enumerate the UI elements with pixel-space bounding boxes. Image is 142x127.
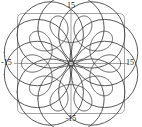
tick-label-right: 15 bbox=[126, 59, 134, 67]
plot-canvas bbox=[0, 0, 142, 127]
tick-label-left: -15 bbox=[1, 59, 12, 67]
figure-container: 15 -15 -15 15 bbox=[0, 0, 142, 127]
tick-label-bottom: -15 bbox=[0, 115, 142, 123]
tick-label-top: 15 bbox=[0, 2, 142, 10]
